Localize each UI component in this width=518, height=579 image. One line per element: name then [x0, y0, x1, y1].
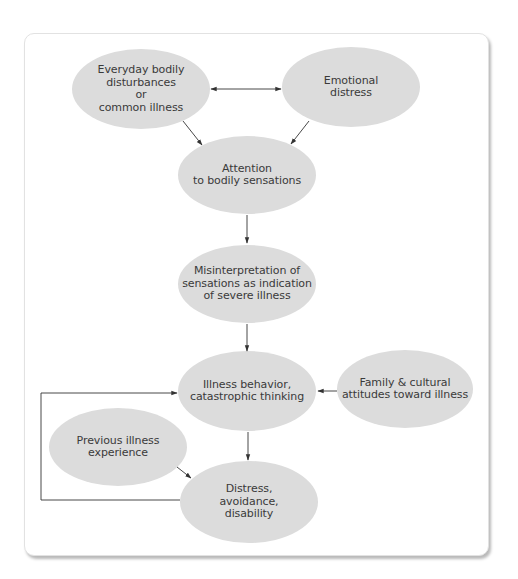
- node-attention-label: Attention to bodily sensations: [178, 136, 316, 214]
- node-family-label: Family & cultural attitudes toward illne…: [337, 350, 473, 428]
- node-distress-label: Distress, avoidance, disability: [180, 461, 318, 543]
- node-illness-behavior-label: Illness behavior, catastrophic thinking: [178, 351, 316, 431]
- node-previous-label: Previous illness experience: [49, 408, 187, 486]
- node-everyday-label: Everyday bodily disturbances or common i…: [72, 49, 210, 129]
- node-emotional-label: Emotional distress: [282, 47, 420, 127]
- node-misinterpretation-label: Misinterpretation of sensations as indic…: [178, 245, 316, 323]
